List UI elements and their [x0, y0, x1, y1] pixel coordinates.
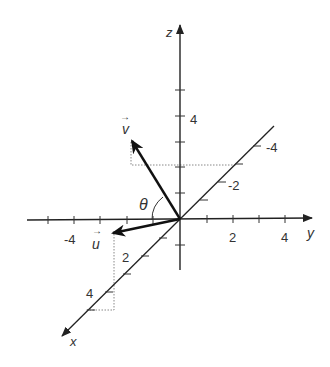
vector-u-arrow-glyph: → [92, 225, 102, 236]
tick-label-x-2: 2 [122, 250, 129, 265]
tick-label-xneg-2: -2 [228, 178, 240, 193]
x-axis-label: x [69, 334, 77, 349]
tick-label-xneg-4: -4 [266, 140, 278, 155]
vector-v-label: v [122, 121, 130, 137]
tick-label-z-4: 4 [190, 112, 197, 127]
vector-u-label: u [92, 236, 100, 252]
theta-label: θ [139, 196, 148, 213]
guide-lines [86, 142, 237, 310]
tick-label-y-4: 4 [281, 230, 288, 245]
axes-svg: z y x 4 -4 2 4 2 4 -2 -4 → v → u θ [0, 0, 330, 367]
theta-arc [152, 197, 163, 220]
y-axis-label: y [306, 225, 315, 241]
z-axis-label: z [165, 25, 173, 40]
tick-label-y-neg4: -4 [64, 232, 76, 247]
tick-label-x-4: 4 [86, 286, 93, 301]
vector-u [113, 219, 180, 233]
tick-label-y-2: 2 [229, 230, 236, 245]
y-axis-line [27, 218, 312, 220]
vector-diagram: z y x 4 -4 2 4 2 4 -2 -4 → v → u θ [0, 0, 330, 367]
